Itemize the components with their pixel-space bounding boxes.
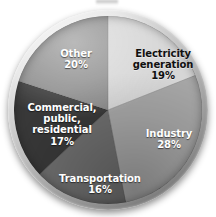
- slice-label-commercial-public-residential: Commercial, public, residential 17%: [14, 102, 110, 147]
- slice-label-line1: Industry: [132, 128, 206, 139]
- scan-artifact: [96, 0, 118, 5]
- pie-chart-figure: Electricity generation 19% Industry 28% …: [0, 0, 216, 217]
- slice-label-value: 16%: [50, 184, 150, 195]
- slice-label-line2: generation: [120, 59, 206, 70]
- slice-label-value: 20%: [44, 59, 108, 70]
- slice-label-line3: residential: [14, 124, 110, 135]
- slice-label-line2: public,: [14, 113, 110, 124]
- slice-label-line1: Other: [44, 48, 108, 59]
- slice-label-value: 28%: [132, 139, 206, 150]
- slice-label-line1: Transportation: [50, 173, 150, 184]
- slice-label-transportation: Transportation 16%: [50, 173, 150, 195]
- slice-label-line1: Commercial,: [14, 102, 110, 113]
- slice-label-other: Other 20%: [44, 48, 108, 70]
- slice-label-electricity-generation: Electricity generation 19%: [120, 48, 206, 82]
- pie-chart: Electricity generation 19% Industry 28% …: [8, 10, 208, 210]
- slice-label-industry: Industry 28%: [132, 128, 206, 150]
- slice-label-value: 19%: [120, 70, 206, 81]
- slice-label-value: 17%: [14, 136, 110, 147]
- slice-label-line1: Electricity: [120, 48, 206, 59]
